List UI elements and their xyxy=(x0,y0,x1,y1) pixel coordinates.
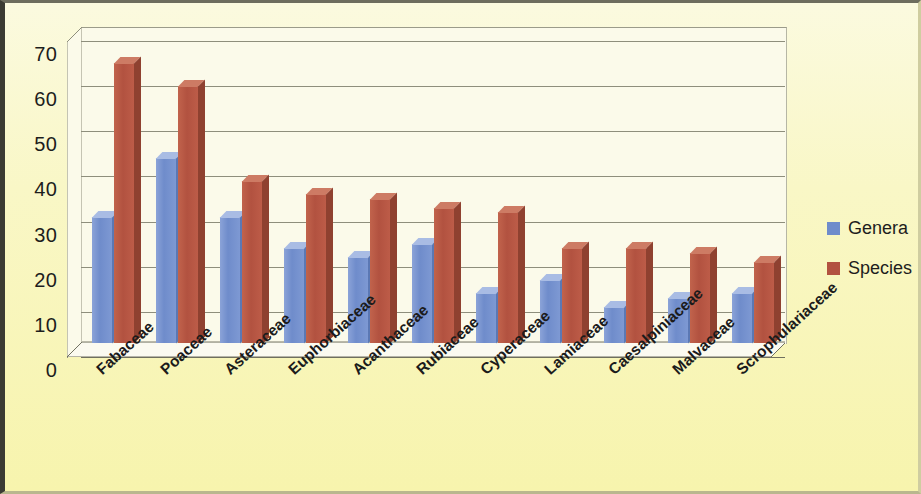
bar-species-euphorbiaceae xyxy=(306,194,326,343)
gridline-70 xyxy=(81,41,785,42)
bar-side-face xyxy=(326,188,333,344)
bar-face xyxy=(92,217,112,343)
bar-face xyxy=(306,194,326,343)
y-tick-label: 20 xyxy=(11,269,57,292)
bar-face xyxy=(732,293,752,343)
y-tick-label: 10 xyxy=(11,314,57,337)
chart-area: 706050403020100 FabaceaePoaceaeAsteracea… xyxy=(5,3,918,491)
legend-label: Species xyxy=(848,258,912,279)
bar-genera-poaceae xyxy=(156,158,176,343)
bar-species-asteraceae xyxy=(242,181,262,344)
legend-label: Genera xyxy=(848,218,908,239)
bar-genera-fabaceae xyxy=(92,217,112,343)
legend-swatch-icon xyxy=(827,222,840,235)
bar-species-caesalpiniaceae xyxy=(626,248,646,343)
bar-species-poaceae xyxy=(178,86,198,343)
bar-face xyxy=(370,199,390,343)
bar-species-acanthaceae xyxy=(370,199,390,343)
y-tick-label: 70 xyxy=(11,43,57,66)
bar-face xyxy=(242,181,262,344)
bar-side-face xyxy=(262,174,269,343)
bar-face xyxy=(498,212,518,343)
y-tick-label: 40 xyxy=(11,178,57,201)
y-axis-labels: 706050403020100 xyxy=(5,27,57,357)
y-tick-label: 0 xyxy=(11,359,57,382)
bar-genera-asteraceae xyxy=(220,217,240,343)
bar-side-face xyxy=(134,57,141,344)
y-tick-label: 30 xyxy=(11,224,57,247)
y-tick-label: 60 xyxy=(11,88,57,111)
bar-face xyxy=(114,63,134,343)
chart-frame: 706050403020100 FabaceaePoaceaeAsteracea… xyxy=(0,0,921,494)
bar-genera-cyperaceae xyxy=(476,293,496,343)
legend-item-genera[interactable]: Genera xyxy=(827,218,912,239)
bar-face xyxy=(562,248,582,343)
bar-face xyxy=(434,208,454,343)
bar-genera-scrophulariaceae xyxy=(732,293,752,343)
bar-face xyxy=(220,217,240,343)
chart-legend: GeneraSpecies xyxy=(827,218,912,298)
legend-swatch-icon xyxy=(827,262,840,275)
bar-face xyxy=(476,293,496,343)
bar-species-fabaceae xyxy=(114,63,134,343)
bar-side-face xyxy=(390,192,397,343)
bar-face xyxy=(178,86,198,343)
y-tick-label: 50 xyxy=(11,133,57,156)
bar-species-rubiaceae xyxy=(434,208,454,343)
bar-species-cyperaceae xyxy=(498,212,518,343)
bar-face xyxy=(626,248,646,343)
legend-item-species[interactable]: Species xyxy=(827,258,912,279)
bar-side-face xyxy=(198,79,205,343)
bar-species-lamiaceae xyxy=(562,248,582,343)
bar-face xyxy=(156,158,176,343)
